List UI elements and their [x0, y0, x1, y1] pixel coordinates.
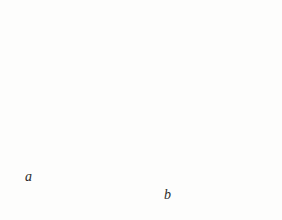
- panel-label-a: a: [25, 169, 32, 185]
- micelle-figure: a b: [0, 0, 282, 220]
- micelle-diagram-canvas: [0, 0, 282, 220]
- panel-label-b: b: [164, 187, 171, 203]
